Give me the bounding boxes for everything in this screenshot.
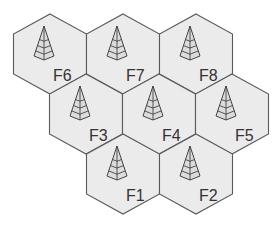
cell-label: F5 <box>235 127 254 144</box>
cell-label: F4 <box>162 127 181 144</box>
cell-label: F6 <box>53 67 72 84</box>
hex-cell-diagram: F6F7F8F3F4F5F1F2 <box>0 0 275 228</box>
cell-label: F2 <box>199 187 218 204</box>
cell-label: F8 <box>199 67 218 84</box>
cell-label: F1 <box>126 187 145 204</box>
cell-label: F7 <box>126 67 145 84</box>
cell-label: F3 <box>89 127 108 144</box>
